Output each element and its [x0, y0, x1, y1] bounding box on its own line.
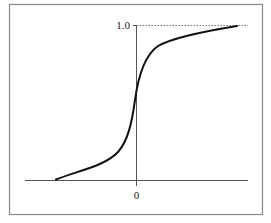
sigmoid-curve [56, 26, 237, 180]
y-tick-label-1: 1.0 [116, 19, 130, 31]
x-tick-label-0: 0 [134, 189, 140, 201]
chart-figure: 1.0 0 [0, 0, 271, 223]
